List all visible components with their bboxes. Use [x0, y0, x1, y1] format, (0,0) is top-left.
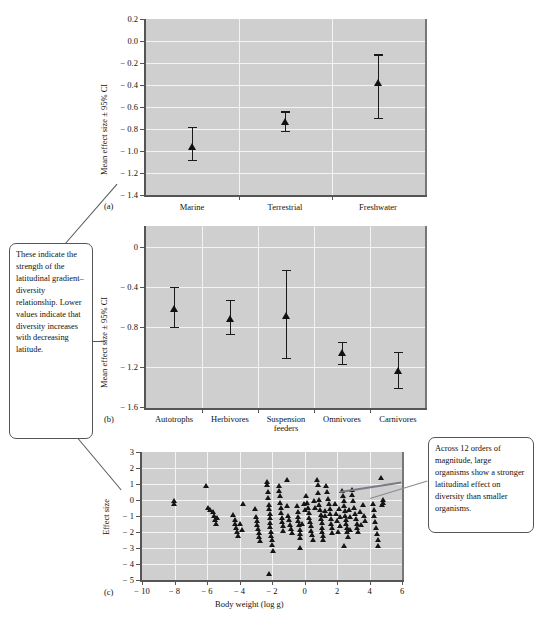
scatter-point — [341, 543, 347, 548]
callout-right: Across 12 orders of magnitude, large org… — [428, 437, 534, 533]
scatter-point — [315, 490, 321, 495]
scatter-point — [269, 542, 275, 547]
callout-left-text: These indicate the strength of the latit… — [16, 250, 84, 354]
scatter-point — [297, 545, 303, 550]
scatter-point — [315, 482, 321, 487]
scatter-point — [349, 492, 355, 497]
scatter-point — [358, 522, 364, 527]
scatter-point — [371, 507, 377, 512]
scatter-point — [345, 534, 351, 539]
scatter-point — [374, 531, 380, 536]
scatter-point — [350, 498, 356, 503]
scatter-point — [360, 502, 366, 507]
scatter-point — [322, 508, 328, 513]
scatter-point — [320, 537, 326, 542]
scatter-point — [324, 489, 330, 494]
scatter-point — [257, 538, 263, 543]
scatter-point — [265, 495, 271, 500]
scatter-point — [370, 501, 376, 506]
scatter-point — [280, 528, 286, 533]
scatter-point — [277, 493, 283, 498]
scatter-point — [378, 475, 384, 480]
scatter-point — [299, 521, 305, 526]
scatter-point — [252, 506, 258, 511]
scatter-point — [171, 501, 177, 506]
scatter-point — [284, 503, 290, 508]
scatter-point — [371, 513, 377, 518]
scatter-point — [301, 501, 307, 506]
callout-right-text: Across 12 orders of magnitude, large org… — [435, 444, 524, 513]
figure-root: 0.2 0.0 − 0.2 − 0.4 − 0.6 − 0.8 − 1.0 − … — [0, 0, 542, 631]
scatter-point — [289, 530, 295, 535]
scatter-point — [323, 483, 329, 488]
scatter-point — [214, 515, 220, 520]
panel-c-x-axis-title: Body weight (log g) — [215, 599, 284, 609]
scatter-point — [240, 501, 246, 506]
scatter-point — [357, 509, 363, 514]
scatter-point — [347, 527, 353, 532]
panel-c-y-axis-title: Effect size — [101, 499, 111, 535]
scatter-point — [237, 521, 243, 526]
scatter-point — [270, 548, 276, 553]
scatter-point — [340, 493, 346, 498]
scatter-point — [335, 529, 341, 534]
scatter-point — [284, 477, 290, 482]
scatter-point — [380, 500, 386, 505]
scatter-point — [325, 496, 331, 501]
scatter-point — [297, 535, 303, 540]
scatter-point — [337, 514, 343, 519]
scatter-point — [264, 482, 270, 487]
scatter-point — [355, 529, 361, 534]
scatter-point — [336, 506, 342, 511]
scatter-point — [311, 498, 317, 503]
scatter-point — [266, 571, 272, 576]
scatter-point — [372, 519, 378, 524]
scatter-point — [277, 500, 283, 505]
scatter-point — [230, 512, 236, 517]
scatter-point — [346, 507, 352, 512]
scatter-point — [269, 537, 275, 542]
scatter-point — [213, 521, 219, 526]
leader-line-left-callout-stub — [93, 341, 105, 342]
panel-c-letter: (c) — [104, 587, 113, 597]
scatter-point — [294, 503, 300, 508]
scatter-point — [373, 525, 379, 530]
scatter-point — [375, 537, 381, 542]
scatter-point — [203, 483, 209, 488]
scatter-point — [310, 537, 316, 542]
scatter-point — [295, 509, 301, 514]
scatter-point — [312, 505, 318, 510]
scatter-point — [322, 513, 328, 518]
scatter-point — [332, 501, 338, 506]
scatter-point — [239, 527, 245, 532]
scatter-point — [314, 477, 320, 482]
scatter-point — [265, 489, 271, 494]
scatter-point — [347, 514, 353, 519]
scatter-point — [337, 523, 343, 528]
callout-left: These indicate the strength of the latit… — [9, 243, 93, 439]
scatter-point — [375, 543, 381, 548]
scatter-point — [303, 493, 309, 498]
scatter-point — [302, 507, 308, 512]
scatter-point — [276, 488, 282, 493]
scatter-point — [235, 533, 241, 538]
